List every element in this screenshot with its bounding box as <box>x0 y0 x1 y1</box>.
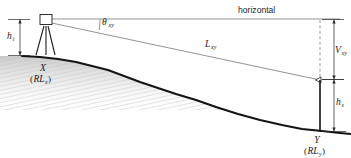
vertical-angle-arc <box>99 20 100 31</box>
instrument-height-subscript: i <box>13 36 15 42</box>
vertical-angle-label: θ xy <box>102 17 114 28</box>
station-x-label: X <box>39 63 47 73</box>
slope-distance-symbol: L <box>204 39 210 49</box>
tripod-leg-right <box>48 26 55 55</box>
vertical-component-subscript: xy <box>341 50 348 56</box>
hi-arrow-top <box>18 20 21 24</box>
theodolite-body <box>40 15 52 25</box>
tripod-leg-left <box>36 26 44 55</box>
theta-subscript: xy <box>108 22 115 28</box>
hs-arrow-top <box>332 80 335 84</box>
instrument-height-dimension: h i <box>7 20 30 56</box>
slope-distance-label: L xy <box>204 39 217 50</box>
vxy-arrow-bottom <box>332 76 335 80</box>
station-x-rl-label: ( RL x ) <box>30 74 51 85</box>
rl-y-paren-close: ) <box>322 146 325 156</box>
surveying-diagram: horizontal θ xy L xy X ( RL <box>0 0 351 158</box>
station-y-label: Y <box>314 135 321 145</box>
target-height-subscript: s <box>342 102 345 108</box>
slope-distance-subscript: xy <box>210 44 217 50</box>
hs-arrow-bottom <box>332 128 335 132</box>
vxy-arrow-top <box>332 20 335 24</box>
rl-x-paren-close: ) <box>48 74 51 84</box>
theta-symbol: θ <box>102 17 107 27</box>
vertical-component-dimension: V xy <box>322 20 347 80</box>
station-y-label-group: Y ( RL y ) <box>304 135 325 157</box>
rl-y-symbol: RL <box>307 146 319 156</box>
rl-x-symbol: RL <box>33 74 45 84</box>
station-y-rl-label: ( RL y ) <box>304 146 325 157</box>
instrument-station-x <box>36 15 55 56</box>
horizontal-label: horizontal <box>238 5 275 15</box>
hi-arrow-bottom <box>18 52 21 56</box>
target-height-symbol: h <box>336 97 341 107</box>
diagram-canvas: horizontal θ xy L xy X ( RL <box>0 0 351 158</box>
instrument-height-symbol: h <box>7 31 12 41</box>
target-height-dimension: h s <box>322 80 346 132</box>
